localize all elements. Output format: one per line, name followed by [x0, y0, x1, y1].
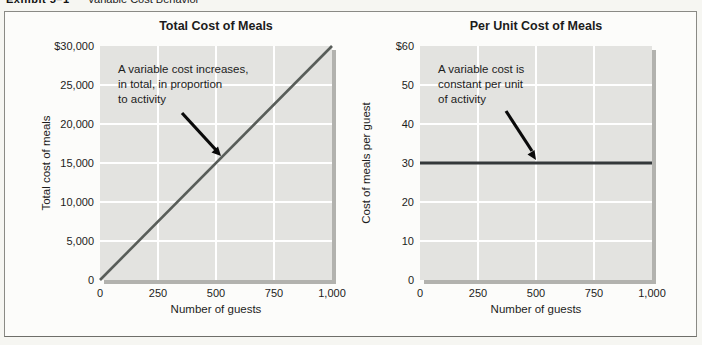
exhibit-figure: Exhibit 5–1Variable Cost Behavior Total …	[0, 0, 702, 345]
y-tick-label: 20	[402, 196, 414, 208]
y-axis-ticks: $30,000 25,000 20,000 15,000 10,000 5,00…	[54, 40, 94, 286]
x-tick-label: 500	[207, 287, 225, 299]
x-tick-label: 500	[527, 287, 545, 299]
y-tick-label: 0	[408, 274, 414, 286]
y-tick-label: 25,000	[60, 79, 94, 91]
x-axis-label: Number of guests	[171, 303, 262, 315]
x-axis-label: Number of guests	[491, 303, 582, 315]
y-tick-label: 15,000	[60, 157, 94, 169]
exhibit-title: Variable Cost Behavior	[88, 0, 200, 5]
x-tick-label: 250	[149, 287, 167, 299]
x-tick-label: 750	[265, 287, 283, 299]
y-axis-label: Cost of meals per guest	[360, 101, 372, 223]
annotation-line-3: to activity	[118, 93, 166, 105]
x-tick-label: 1,000	[318, 287, 346, 299]
annotation-line-1: A variable cost is	[438, 63, 525, 75]
y-tick-label: 30	[402, 157, 414, 169]
x-tick-label: 1,000	[638, 287, 666, 299]
x-axis-ticks: 0 250 500 750 1,000	[97, 287, 346, 299]
chart-title: Per Unit Cost of Meals	[470, 19, 603, 33]
x-tick-label: 250	[469, 287, 487, 299]
y-axis-label: Total cost of meals	[40, 115, 52, 210]
y-tick-label: 0	[88, 274, 94, 286]
y-tick-label: 10,000	[60, 196, 94, 208]
annotation-line-1: A variable cost increases,	[118, 63, 248, 75]
x-axis-ticks: 0 250 500 750 1,000	[417, 287, 666, 299]
y-tick-label: 40	[402, 118, 414, 130]
exhibit-number-label: Exhibit 5–1	[6, 0, 70, 5]
x-tick-label: 0	[417, 287, 423, 299]
x-tick-label: 750	[585, 287, 603, 299]
annotation-line-2: in total, in proportion	[118, 78, 222, 90]
y-axis-ticks: $60 50 40 30 20 10 0	[396, 40, 414, 286]
total-cost-chart: Total Cost of Meals A variable cost incr…	[36, 14, 366, 326]
x-tick-label: 0	[97, 287, 103, 299]
chart-title: Total Cost of Meals	[159, 19, 273, 33]
y-tick-label: 10	[402, 235, 414, 247]
y-tick-label: 5,000	[66, 235, 94, 247]
y-tick-label: $30,000	[54, 40, 94, 52]
annotation-line-2: constant per unit	[438, 78, 524, 90]
y-tick-label: 20,000	[60, 118, 94, 130]
exhibit-header: Exhibit 5–1Variable Cost Behavior	[6, 0, 199, 8]
annotation-line-3: of activity	[438, 93, 486, 105]
y-tick-label: $60	[396, 40, 414, 52]
per-unit-cost-chart: Per Unit Cost of Meals A variable cost i…	[356, 14, 686, 326]
y-tick-label: 50	[402, 79, 414, 91]
